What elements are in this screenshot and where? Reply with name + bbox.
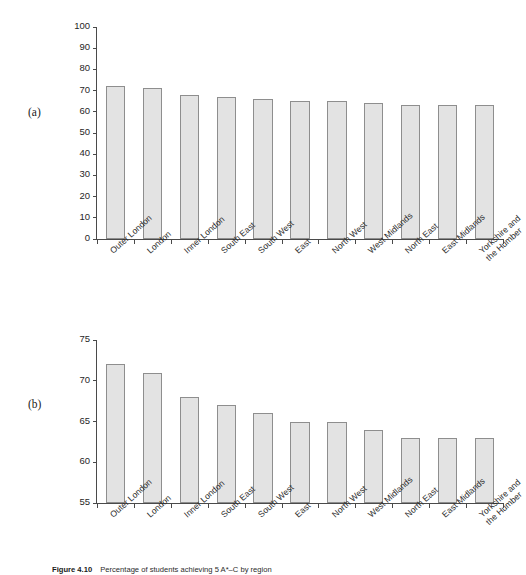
bar — [253, 99, 272, 239]
bar — [106, 364, 125, 503]
y-tick-label: 40 — [79, 147, 90, 158]
bar — [180, 95, 199, 239]
panel-b-label: (b) — [28, 398, 41, 410]
y-tick-label: 30 — [79, 168, 90, 179]
y-tick-mark — [93, 154, 97, 155]
y-tick-label: 75 — [79, 333, 90, 344]
y-tick-mark — [93, 48, 97, 49]
y-tick-mark — [93, 27, 97, 28]
y-tick-mark — [93, 196, 97, 197]
y-tick-mark — [93, 421, 97, 422]
bar — [438, 105, 457, 239]
plot-area-a: 0102030405060708090100 — [97, 27, 503, 239]
bar-series-a — [97, 27, 503, 239]
figure-caption: Figure 4.10 Percentage of students achie… — [52, 565, 492, 574]
y-tick-label: 80 — [79, 62, 90, 73]
panel-a-label: (a) — [28, 106, 41, 118]
bar — [180, 397, 199, 503]
chart-panel-b: (b) 5560657075 Outer LondonLondonInner L… — [0, 320, 519, 560]
y-tick-label: 90 — [79, 41, 90, 52]
y-tick-label: 55 — [79, 496, 90, 507]
y-tick-label: 60 — [79, 105, 90, 116]
y-tick-mark — [93, 340, 97, 341]
x-axis-labels-a: Outer LondonLondonInner LondonSouth East… — [0, 244, 519, 324]
caption-text: Percentage of students achieving 5 A*–C … — [100, 565, 271, 574]
y-tick-label: 65 — [79, 415, 90, 426]
bar — [475, 438, 494, 503]
y-tick-mark — [93, 217, 97, 218]
y-tick-mark — [93, 69, 97, 70]
caption-figure-word: Figure — [52, 565, 75, 574]
bar — [106, 86, 125, 239]
y-tick-label: 60 — [79, 455, 90, 466]
bar — [401, 438, 420, 503]
y-tick-mark — [93, 380, 97, 381]
y-tick-label: 50 — [79, 126, 90, 137]
chart-panel-a: (a) 0102030405060708090100 Outer LondonL… — [0, 0, 519, 320]
plot-area-b: 5560657075 — [97, 340, 503, 503]
y-tick-mark — [93, 462, 97, 463]
bar — [364, 103, 383, 239]
y-tick-label: 10 — [79, 211, 90, 222]
y-tick-label: 100 — [74, 20, 90, 31]
y-tick-mark — [93, 111, 97, 112]
caption-figure-number: 4.10 — [77, 565, 92, 574]
bar — [327, 422, 346, 504]
bar — [438, 438, 457, 503]
y-tick-mark — [93, 90, 97, 91]
y-tick-label: 20 — [79, 190, 90, 201]
y-tick-label: 0 — [85, 232, 90, 243]
bar — [290, 101, 309, 239]
y-tick-mark — [93, 175, 97, 176]
y-tick-label: 70 — [79, 374, 90, 385]
bar-series-b — [97, 340, 503, 503]
bar — [253, 413, 272, 503]
y-tick-label: 70 — [79, 84, 90, 95]
bar — [327, 101, 346, 239]
y-tick-mark — [93, 133, 97, 134]
